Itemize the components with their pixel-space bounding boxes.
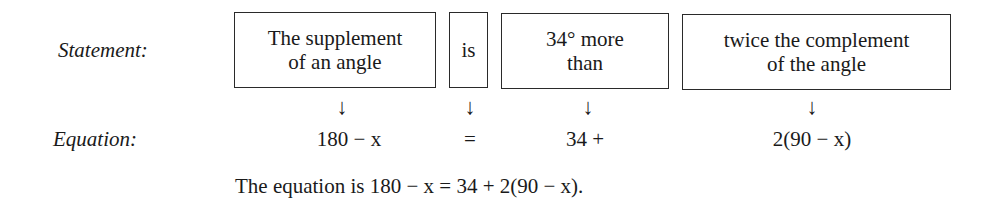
down-arrow-icon: ↓ [465,96,476,118]
equation-part-34-plus: 34 + [566,129,604,150]
down-arrow-icon: ↓ [583,96,594,118]
statement-label: Statement: [58,40,148,61]
equation-part-complement: 2(90 − x) [773,129,851,150]
box-more-than: 34° more than [501,13,669,89]
box-complement: twice the complement of the angle [682,14,951,90]
box-supplement-text: The supplement of an angle [268,26,403,74]
box-complement-text: twice the complement of the angle [724,28,909,76]
final-suffix: . [578,174,583,198]
down-arrow-icon: ↓ [807,96,818,118]
down-arrow-icon: ↓ [337,96,348,118]
box-supplement: The supplement of an angle [234,12,436,88]
final-equation-sentence: The equation is 180 − x = 34 + 2(90 − x)… [235,176,583,197]
final-equation: 180 − x = 34 + 2(90 − x) [370,174,578,198]
equation-part-equals: = [464,129,476,150]
equation-part-lhs: 180 − x [317,129,381,150]
equation-label: Equation: [53,129,137,150]
box-more-than-text: 34° more than [546,27,624,75]
box-is: is [449,12,488,88]
box-is-text: is [461,38,475,62]
final-prefix: The equation is [235,174,370,198]
